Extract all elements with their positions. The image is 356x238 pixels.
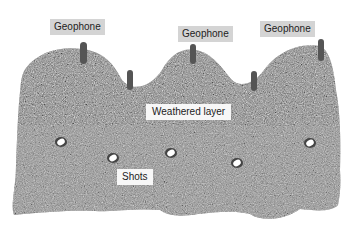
geophone-icon bbox=[190, 44, 196, 64]
geophone-label: Geophone bbox=[50, 19, 105, 35]
geophone-icon bbox=[251, 71, 257, 91]
diagram-canvas: Geophone Geophone Geophone Weathered lay… bbox=[0, 0, 356, 238]
weathered-layer-label: Weathered layer bbox=[146, 104, 231, 120]
geophone-label: Geophone bbox=[178, 26, 233, 42]
geophone-icon bbox=[127, 70, 133, 90]
shots-label: Shots bbox=[117, 169, 153, 185]
geophone-label: Geophone bbox=[260, 21, 315, 37]
geophone-icon bbox=[80, 42, 87, 64]
geophone-icon bbox=[318, 39, 324, 61]
